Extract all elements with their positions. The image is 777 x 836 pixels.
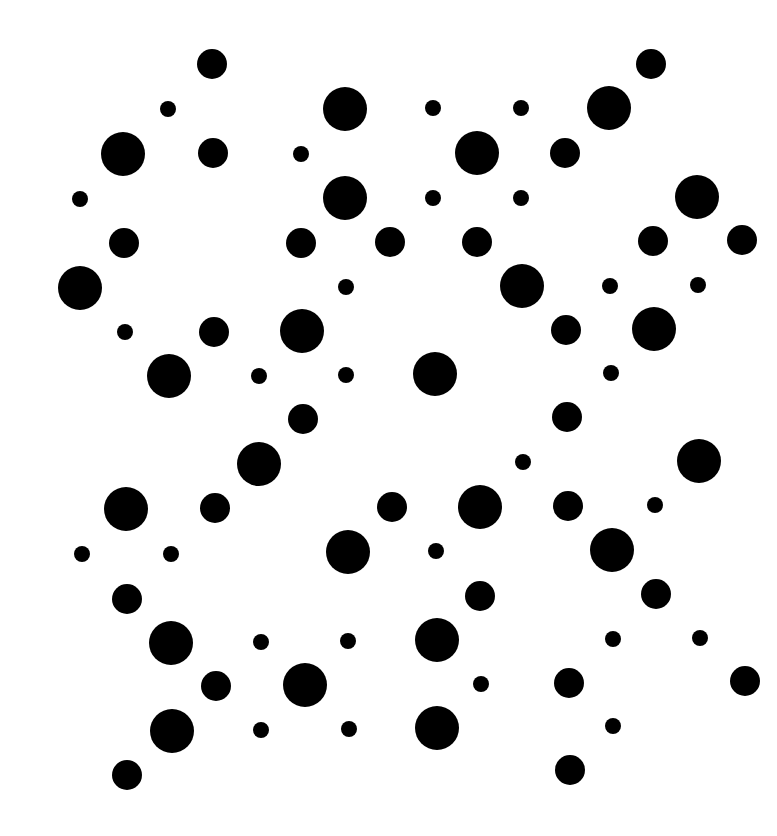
- dot-small: [117, 324, 133, 340]
- dot-small: [340, 633, 356, 649]
- dot-medium: [730, 666, 760, 696]
- dot-small: [513, 190, 529, 206]
- dot-small: [647, 497, 663, 513]
- dot-small: [253, 722, 269, 738]
- dot-small: [605, 718, 621, 734]
- dot-small: [72, 191, 88, 207]
- dot-small: [425, 100, 441, 116]
- dot-small: [293, 146, 309, 162]
- dot-medium: [112, 760, 142, 790]
- dot-large: [415, 706, 459, 750]
- dot-small: [602, 278, 618, 294]
- dot-large: [323, 87, 367, 131]
- dot-medium: [551, 315, 581, 345]
- dot-small: [341, 721, 357, 737]
- dot-medium: [550, 138, 580, 168]
- dot-medium: [377, 492, 407, 522]
- dot-medium: [462, 227, 492, 257]
- dot-small: [473, 676, 489, 692]
- dot-small: [425, 190, 441, 206]
- dot-medium: [554, 668, 584, 698]
- dot-medium: [286, 228, 316, 258]
- dot-medium: [552, 402, 582, 432]
- dot-large: [455, 131, 499, 175]
- dot-medium: [636, 49, 666, 79]
- dot-medium: [465, 581, 495, 611]
- dot-medium: [200, 493, 230, 523]
- dot-medium: [198, 138, 228, 168]
- dot-medium: [201, 671, 231, 701]
- dot-large: [147, 354, 191, 398]
- dot-medium: [727, 225, 757, 255]
- dot-medium: [199, 317, 229, 347]
- dot-medium: [375, 227, 405, 257]
- dot-medium: [197, 49, 227, 79]
- dot-pattern: [0, 0, 777, 836]
- dot-large: [237, 442, 281, 486]
- dot-large: [413, 352, 457, 396]
- dot-medium: [641, 579, 671, 609]
- dot-small: [338, 279, 354, 295]
- dot-small: [605, 631, 621, 647]
- dot-small: [251, 368, 267, 384]
- dot-small: [513, 100, 529, 116]
- dot-large: [590, 528, 634, 572]
- dot-small: [163, 546, 179, 562]
- dot-large: [675, 175, 719, 219]
- dot-large: [149, 621, 193, 665]
- dot-large: [415, 618, 459, 662]
- dot-pattern-canvas: [0, 0, 777, 836]
- dot-large: [150, 709, 194, 753]
- dot-medium: [112, 584, 142, 614]
- dot-medium: [288, 404, 318, 434]
- dot-medium: [553, 491, 583, 521]
- dot-small: [690, 277, 706, 293]
- dot-large: [458, 485, 502, 529]
- dot-medium: [555, 755, 585, 785]
- dot-small: [692, 630, 708, 646]
- dot-large: [677, 439, 721, 483]
- dot-small: [603, 365, 619, 381]
- dot-small: [74, 546, 90, 562]
- dot-small: [160, 101, 176, 117]
- dot-medium: [109, 228, 139, 258]
- dot-small: [428, 543, 444, 559]
- dot-large: [587, 86, 631, 130]
- dot-large: [58, 266, 102, 310]
- dot-small: [338, 367, 354, 383]
- dot-large: [632, 307, 676, 351]
- dot-large: [326, 530, 370, 574]
- dot-large: [323, 176, 367, 220]
- background: [0, 0, 777, 836]
- dot-large: [283, 663, 327, 707]
- dot-small: [515, 454, 531, 470]
- dot-large: [500, 264, 544, 308]
- dot-large: [104, 487, 148, 531]
- dot-small: [253, 634, 269, 650]
- dot-medium: [638, 226, 668, 256]
- dot-large: [280, 309, 324, 353]
- dot-large: [101, 132, 145, 176]
